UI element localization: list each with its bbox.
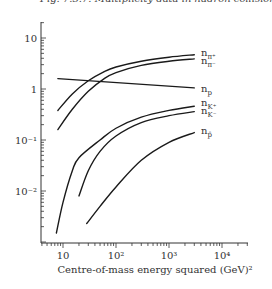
x-tick-label: 10⁴ [214,250,231,261]
x-axis-title: Centre-of-mass energy squared (GeV)² [57,264,252,275]
y-tick-label: 10⁻² [15,186,37,197]
y-tick-label: 10 [24,33,37,44]
series-curve-n- [58,59,194,130]
series-label-p: np [201,83,212,97]
series-label-pbar: np̄ [201,125,212,139]
x-tick-label: 10² [108,250,125,261]
series-curve-n-k- [56,106,194,233]
series-curve-n-p- [87,133,195,224]
series-labels: nπ⁺nπ⁻npnK⁺nK⁻np̄ [201,47,217,139]
series-curve-n-k- [79,112,194,196]
x-tick-label: 10 [57,250,70,261]
y-tick-label: 10⁻¹ [15,135,37,146]
y-tick-label: 1 [31,84,37,95]
chart: 10110⁻¹10⁻²1010²10³10⁴ nπ⁺nπ⁻npnK⁺nK⁻np̄… [0,0,272,289]
x-tick-label: 10³ [161,250,178,261]
curves [56,55,194,233]
series-curve-n-p [58,79,194,88]
